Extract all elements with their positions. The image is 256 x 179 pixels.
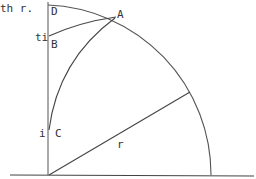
radius-line (49, 92, 190, 175)
caption-fragment: th r. (0, 2, 33, 15)
diagram-svg: th r. D A ti B i C r (0, 0, 256, 179)
point-label-b: B (51, 38, 58, 51)
point-label-d: D (51, 5, 58, 18)
point-label-a: A (117, 8, 124, 21)
baseline (10, 175, 254, 176)
geometry-diagram: th r. D A ti B i C r (0, 0, 256, 179)
outer-arc (48, 5, 211, 175)
side-label-ti: ti (35, 31, 48, 44)
arc-b-to-a (49, 17, 116, 36)
point-label-c: C (55, 127, 62, 140)
side-label-i: i (39, 127, 46, 140)
side-label-r: r (117, 138, 124, 151)
inner-arc-c-to-a (49, 18, 115, 130)
